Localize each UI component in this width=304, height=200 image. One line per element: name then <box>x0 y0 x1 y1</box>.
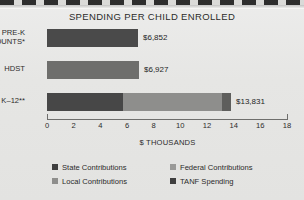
bar-value-label: $13,831 <box>236 97 265 106</box>
x-axis-title: $ THOUSANDS <box>47 138 288 147</box>
bar-value-label: $6,852 <box>143 33 167 42</box>
chart-panel: SPENDING PER CHILD ENROLLED PRE-K COUNTS… <box>0 0 304 200</box>
x-tick-label: 8 <box>152 121 156 130</box>
legend-item-tanf: TANF Spending <box>170 177 282 186</box>
bar-segment-state <box>47 93 123 111</box>
x-tick-label: 12 <box>203 121 211 130</box>
x-tick-label: 2 <box>72 121 76 130</box>
x-axis-cap-right <box>287 114 288 120</box>
bar-segment-tanf <box>222 93 232 111</box>
x-tick-label: 16 <box>256 121 264 130</box>
chart-legend: State Contributions Federal Contribution… <box>52 160 282 188</box>
x-axis-cap-left <box>47 114 48 120</box>
legend-swatch-icon <box>52 178 58 184</box>
legend-label: State Contributions <box>62 163 127 172</box>
legend-label: TANF Spending <box>180 177 233 186</box>
x-tick-label: 18 <box>283 121 291 130</box>
legend-label: Federal Contributions <box>180 163 253 172</box>
x-tick-label: 6 <box>125 121 129 130</box>
stacked-bar-hdst <box>47 61 139 79</box>
stacked-bar-k12 <box>47 93 231 111</box>
bar-segment-state <box>47 29 138 47</box>
legend-swatch-icon <box>52 164 58 170</box>
x-tick-label: 0 <box>45 121 49 130</box>
top-rule <box>0 8 304 9</box>
bar-row: K–12** $13,831 <box>47 93 287 111</box>
bar-row: HDST $6,927 <box>47 61 287 79</box>
x-tick-label: 4 <box>98 121 102 130</box>
legend-item-state: State Contributions <box>52 163 170 172</box>
legend-swatch-icon <box>170 164 176 170</box>
legend-item-local: Local Contributions <box>52 177 170 186</box>
legend-item-federal: Federal Contributions <box>170 163 282 172</box>
category-label-line2: COUNTS* <box>0 38 25 47</box>
category-label-hdst: HDST <box>0 65 25 74</box>
plot-area: PRE-K COUNTS* $6,852 HDST $6,927 K–12** <box>47 27 287 120</box>
category-label-line1: K–12** <box>0 97 25 106</box>
x-tick-label: 14 <box>229 121 237 130</box>
chart-title: SPENDING PER CHILD ENROLLED <box>0 11 304 22</box>
legend-label: Local Contributions <box>62 177 127 186</box>
bar-row: PRE-K COUNTS* $6,852 <box>47 29 287 47</box>
stacked-bar-prek <box>47 29 138 47</box>
bar-segment-federal <box>47 61 139 79</box>
x-axis-line <box>47 119 288 120</box>
legend-swatch-icon <box>170 178 176 184</box>
bar-value-label: $6,927 <box>144 65 168 74</box>
category-label-line1: HDST <box>0 65 25 74</box>
category-label-prek: PRE-K COUNTS* <box>0 29 25 46</box>
x-tick-label: 10 <box>176 121 184 130</box>
category-label-k12: K–12** <box>0 97 25 106</box>
bar-segment-local <box>123 93 222 111</box>
